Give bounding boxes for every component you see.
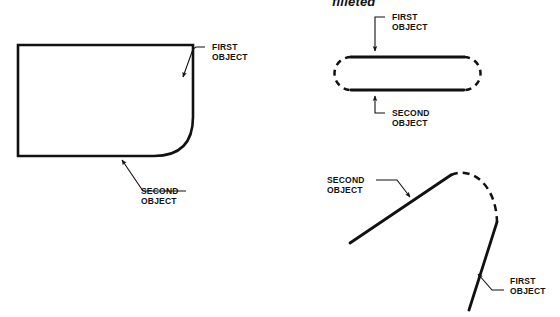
- label-second-object-left-line1: SECOND: [141, 186, 179, 197]
- first-object-line: [469, 222, 497, 310]
- illustration-canvas: [0, 0, 560, 317]
- stadium-right-dashed-cap: [464, 57, 481, 90]
- dashed-fillet-arc: [451, 173, 497, 222]
- leader-line-second-object: [376, 180, 410, 197]
- bottom-right-figure: [350, 173, 504, 310]
- leader-line-first-object: [478, 274, 504, 290]
- stadium-left-dashed-cap: [335, 57, 352, 90]
- label-second-object-bottomright-line2: OBJECT: [327, 185, 363, 196]
- rectangle-fillet-outline: [18, 45, 193, 156]
- left-figure: [18, 45, 205, 191]
- label-first-object-topright-line1: FIRST: [392, 12, 418, 23]
- label-first-object-left-line2: OBJECT: [212, 52, 248, 63]
- label-second-object-bottomright-line1: SECOND: [327, 175, 365, 186]
- label-first-object-bottomright-line2: OBJECT: [510, 286, 546, 297]
- label-second-object-left-line2: OBJECT: [141, 196, 177, 207]
- leader-line-second-object: [375, 96, 385, 113]
- label-second-object-topright-line1: SECOND: [392, 108, 430, 119]
- label-first-object-bottomright-line1: FIRST: [510, 276, 536, 287]
- label-first-object-topright-line2: OBJECT: [392, 22, 428, 33]
- label-first-object-left-line1: FIRST: [212, 42, 238, 53]
- page-heading: filleted: [332, 0, 376, 9]
- leader-line-first-object: [375, 17, 385, 51]
- label-second-object-topright-line2: OBJECT: [392, 118, 428, 129]
